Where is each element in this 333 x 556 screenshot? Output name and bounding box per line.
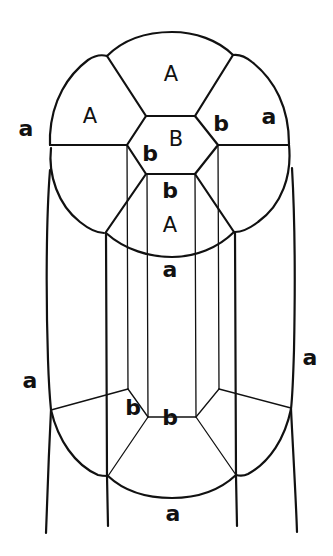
- bottom-left-arc: [51, 410, 108, 476]
- inner-left-wall: [106, 233, 108, 526]
- inner-line-3: [195, 174, 196, 417]
- spoke-bottom-left: [106, 174, 146, 232]
- label-a-right-lower: a: [303, 345, 318, 370]
- label-b-bottom-center: b: [162, 405, 178, 430]
- label-b-center-left: b: [142, 141, 158, 166]
- upper-left-arc: [50, 55, 107, 145]
- inner-right-wall: [235, 233, 237, 526]
- upper-right-arc: [233, 55, 289, 144]
- label-B-center: B: [169, 127, 183, 151]
- label-a-right-upper: a: [262, 104, 277, 129]
- label-A-left: A: [83, 104, 98, 128]
- label-a-left-lower: a: [23, 368, 38, 393]
- label-b-center-lower: b: [162, 178, 178, 203]
- label-a-bottom: a: [166, 501, 181, 526]
- label-a-mid: a: [163, 257, 178, 282]
- lower-left-diagonal: [108, 417, 148, 476]
- inner-line-4: [218, 145, 219, 389]
- label-b-bottom-left: b: [125, 395, 141, 420]
- lower-left-spoke: [51, 389, 128, 410]
- top-arc: [107, 32, 233, 56]
- label-a-left-upper: a: [19, 116, 34, 141]
- lower-left-arc: [50, 148, 104, 233]
- spoke-top-right: [195, 55, 233, 116]
- outer-left-wall: [46, 170, 51, 533]
- inner-line-1: [127, 145, 128, 389]
- lower-right-arc: [235, 145, 290, 232]
- bottom-right-arc: [236, 409, 291, 476]
- label-b-right-upper: b: [213, 111, 229, 136]
- inner-line-2: [147, 174, 148, 417]
- lower-right-spoke: [219, 389, 291, 408]
- spoke-bottom-right: [195, 174, 234, 232]
- lower-right-diagonal: [196, 417, 236, 475]
- spoke-top-left: [107, 56, 146, 116]
- cell-diagram: A A B b a a b b A a a a b b a: [0, 0, 333, 556]
- bottom-center-arc: [108, 475, 236, 498]
- label-A-center-lower: A: [163, 213, 178, 237]
- column-walls: [46, 145, 297, 533]
- label-A-top: A: [164, 62, 179, 86]
- outer-right-wall: [291, 168, 297, 532]
- labels: A A B b a a b b A a a a b b a: [19, 62, 318, 526]
